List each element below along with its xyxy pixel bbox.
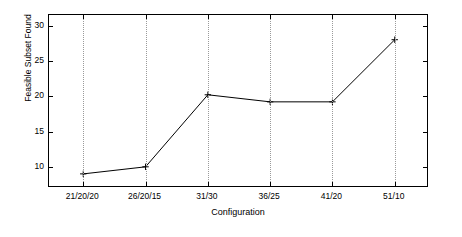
- y-axis-tick-right: [423, 96, 427, 97]
- y-axis-label: Feasible Subset Found: [23, 0, 33, 138]
- data-series-line: [49, 15, 429, 188]
- y-axis-tick-right: [423, 26, 427, 27]
- y-axis-tick: [49, 167, 53, 168]
- x-axis-tick-label: 31/30: [196, 191, 217, 201]
- plot-area: [48, 14, 428, 187]
- x-axis-label: Configuration: [48, 207, 428, 217]
- x-axis-tick-label: 21/20/20: [66, 191, 99, 201]
- y-axis-tick-label: 25: [35, 55, 44, 65]
- gridline-vertical: [83, 15, 84, 186]
- y-axis-tick: [49, 132, 53, 133]
- x-axis-tick-label: 36/25: [259, 191, 280, 201]
- y-axis-tick: [49, 61, 53, 62]
- x-axis-tick: [395, 182, 396, 186]
- x-axis-tick-top: [270, 15, 271, 19]
- x-axis-tick-top: [332, 15, 333, 19]
- x-axis-tick-labels: 21/20/2026/20/1531/3036/2541/2051/10: [48, 191, 428, 205]
- x-axis-tick-label: 41/20: [321, 191, 342, 201]
- gridline-vertical: [146, 15, 147, 186]
- y-axis-tick-right: [423, 61, 427, 62]
- y-axis-tick-label: 30: [35, 20, 44, 30]
- x-axis-tick-top: [208, 15, 209, 19]
- y-axis-tick-label: 15: [35, 126, 44, 136]
- x-axis-tick: [270, 182, 271, 186]
- y-axis-tick-label: 10: [35, 161, 44, 171]
- x-axis-tick: [208, 182, 209, 186]
- y-axis-tick: [49, 26, 53, 27]
- y-axis-tick-right: [423, 167, 427, 168]
- gridline-vertical: [332, 15, 333, 186]
- series-polyline: [83, 40, 394, 174]
- x-axis-tick: [83, 182, 84, 186]
- x-axis-tick-top: [83, 15, 84, 19]
- x-axis-tick-top: [146, 15, 147, 19]
- gridline-vertical: [395, 15, 396, 186]
- gridline-vertical: [208, 15, 209, 186]
- x-axis-tick: [146, 182, 147, 186]
- chart-container: 1015202530 21/20/2026/20/1531/3036/2541/…: [0, 0, 462, 237]
- x-axis-tick-label: 26/20/15: [128, 191, 161, 201]
- y-axis-tick-right: [423, 132, 427, 133]
- y-axis-tick-label: 20: [35, 90, 44, 100]
- x-axis-tick: [332, 182, 333, 186]
- gridline-vertical: [270, 15, 271, 186]
- x-axis-tick-top: [395, 15, 396, 19]
- y-axis-tick: [49, 96, 53, 97]
- x-axis-tick-label: 51/10: [383, 191, 404, 201]
